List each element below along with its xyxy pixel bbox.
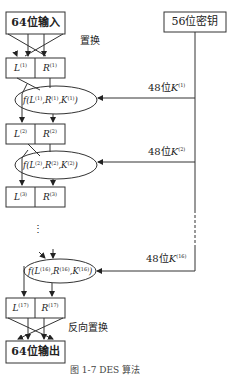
row-1-left: L(1) [6, 63, 35, 73]
key-box: 56位密钥 [164, 16, 226, 27]
function-2: f(L(2),R(2),K(2)) [23, 161, 78, 170]
subkey-2: 48位K(2) [148, 147, 185, 157]
row-2-left: L(2) [6, 129, 35, 139]
reverse-permutation-label: 反向置换 [68, 323, 108, 333]
function-1: f(L(1),R(1),K(1)) [23, 96, 78, 105]
permutation-label: 置换 [80, 36, 100, 46]
row-17-left: L(17) [6, 303, 35, 313]
row-1-right: R(1) [35, 63, 65, 73]
row-2-right: R(2) [35, 129, 65, 139]
row-17-right: R(17) [35, 303, 65, 313]
figure-caption: 图 1-7 DES 算法 [70, 366, 140, 375]
subkey-16: 48位K(16) [146, 254, 186, 264]
row-3-left: L(3) [6, 192, 35, 202]
ellipsis: ⋮ [33, 224, 43, 234]
des-flow-lines [0, 0, 233, 377]
input-box: 64位输入 [6, 17, 65, 28]
output-box: 64位输出 [6, 346, 65, 357]
row-3-right: R(3) [35, 192, 65, 202]
subkey-1: 48位K(1) [148, 83, 185, 93]
function-16: f(L(16),R(16),K(16)) [28, 267, 92, 276]
